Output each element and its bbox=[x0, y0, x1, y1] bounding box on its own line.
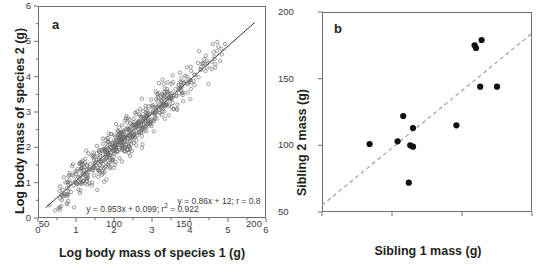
data-point bbox=[223, 42, 226, 45]
panel-letter-a: a bbox=[52, 18, 59, 31]
data-point bbox=[410, 125, 416, 131]
y-tick-label-a: 3 bbox=[0, 107, 31, 117]
data-point bbox=[157, 81, 160, 84]
data-point bbox=[134, 144, 137, 147]
x-tick-label-b: 100 bbox=[106, 219, 122, 229]
data-point bbox=[406, 180, 412, 186]
figure-root: a y = 0.953x + 0.099; r2 = 0.922 Log bod… bbox=[0, 0, 556, 272]
data-point bbox=[197, 76, 200, 79]
data-point bbox=[120, 124, 123, 127]
panel-a: a y = 0.953x + 0.099; r2 = 0.922 Log bod… bbox=[0, 0, 278, 272]
fit-line-b bbox=[322, 33, 532, 205]
regression-text-a: y = 0.953x + 0.099; r bbox=[86, 204, 164, 214]
data-point bbox=[206, 66, 209, 69]
scatter-plot-a bbox=[0, 0, 278, 272]
data-point bbox=[72, 206, 75, 209]
data-point bbox=[163, 117, 166, 120]
data-point bbox=[85, 149, 88, 152]
y-tick-label-b: 50 bbox=[278, 207, 289, 217]
data-point bbox=[477, 84, 483, 90]
data-point bbox=[118, 156, 121, 159]
data-point bbox=[132, 117, 135, 120]
y-tick-label-a: 5 bbox=[0, 37, 31, 47]
data-point bbox=[112, 166, 115, 169]
data-point bbox=[220, 47, 223, 50]
data-points-b bbox=[367, 37, 501, 186]
data-point bbox=[216, 40, 219, 43]
data-point bbox=[204, 69, 207, 72]
data-point bbox=[207, 83, 210, 86]
data-point bbox=[210, 67, 213, 70]
data-point bbox=[400, 113, 406, 119]
data-point bbox=[213, 66, 216, 69]
data-point bbox=[189, 65, 192, 68]
data-point bbox=[181, 99, 184, 102]
data-point bbox=[102, 180, 105, 183]
y-tick-label-a: 6 bbox=[0, 1, 31, 11]
data-point bbox=[193, 84, 196, 87]
y-tick-label-b: 200 bbox=[278, 7, 294, 17]
x-tick-label-a: 6 bbox=[263, 225, 268, 235]
data-point bbox=[62, 176, 65, 179]
data-point bbox=[58, 185, 61, 188]
data-point bbox=[95, 188, 98, 191]
data-point bbox=[154, 90, 157, 93]
data-point bbox=[171, 101, 174, 104]
data-point bbox=[180, 77, 183, 80]
panel-letter-b: b bbox=[334, 22, 342, 35]
data-point bbox=[166, 81, 169, 84]
data-point bbox=[149, 98, 152, 101]
data-point bbox=[89, 162, 92, 165]
x-tick-label-b: 200 bbox=[246, 219, 262, 229]
data-point bbox=[218, 59, 221, 62]
data-point bbox=[202, 58, 205, 61]
data-point bbox=[54, 209, 57, 212]
data-point bbox=[97, 175, 100, 178]
data-point bbox=[367, 141, 373, 147]
data-point bbox=[204, 54, 207, 57]
data-point bbox=[140, 134, 143, 137]
data-point bbox=[92, 174, 95, 177]
data-point bbox=[185, 66, 188, 69]
data-point bbox=[178, 71, 181, 74]
data-point bbox=[114, 122, 117, 125]
data-point bbox=[186, 91, 189, 94]
y-tick-label-a: 0 bbox=[0, 213, 31, 223]
data-point bbox=[395, 138, 401, 144]
data-point bbox=[152, 130, 155, 133]
x-tick-label-a: 3 bbox=[149, 225, 154, 235]
data-point bbox=[220, 53, 223, 56]
data-point bbox=[163, 87, 166, 90]
y-axis-title-b: Sibling 2 mass (g) bbox=[296, 89, 309, 196]
data-point bbox=[140, 97, 143, 100]
data-points-a bbox=[48, 40, 227, 212]
data-point bbox=[174, 87, 177, 90]
data-point bbox=[494, 84, 500, 90]
data-point bbox=[162, 82, 165, 85]
data-point bbox=[58, 189, 61, 192]
data-point bbox=[199, 65, 202, 68]
data-point bbox=[453, 122, 459, 128]
regression-text-b: y = 0.86x + 12; r = 0.8 bbox=[178, 196, 261, 206]
data-point bbox=[140, 146, 143, 149]
data-point bbox=[163, 110, 166, 113]
data-point bbox=[101, 137, 104, 140]
data-point bbox=[176, 103, 179, 106]
data-point bbox=[410, 144, 416, 150]
y-tick-label-a: 4 bbox=[0, 72, 31, 82]
data-point bbox=[196, 61, 199, 64]
data-point bbox=[189, 87, 192, 90]
x-tick-label-b: 150 bbox=[176, 219, 192, 229]
data-point bbox=[479, 37, 485, 43]
x-tick-label-b: 50 bbox=[39, 219, 50, 229]
data-point bbox=[161, 78, 164, 81]
y-tick-label-b: 100 bbox=[278, 141, 294, 151]
panel-b: b y = 0.86x + 12; r = 0.8 Sibling 1 mass… bbox=[278, 0, 556, 272]
x-tick-label-a: 5 bbox=[225, 225, 230, 235]
data-point bbox=[211, 42, 214, 45]
data-point bbox=[96, 166, 99, 169]
data-point bbox=[171, 74, 174, 77]
data-point bbox=[197, 50, 200, 53]
data-point bbox=[190, 69, 193, 72]
x-tick-label-a: 1 bbox=[73, 225, 78, 235]
